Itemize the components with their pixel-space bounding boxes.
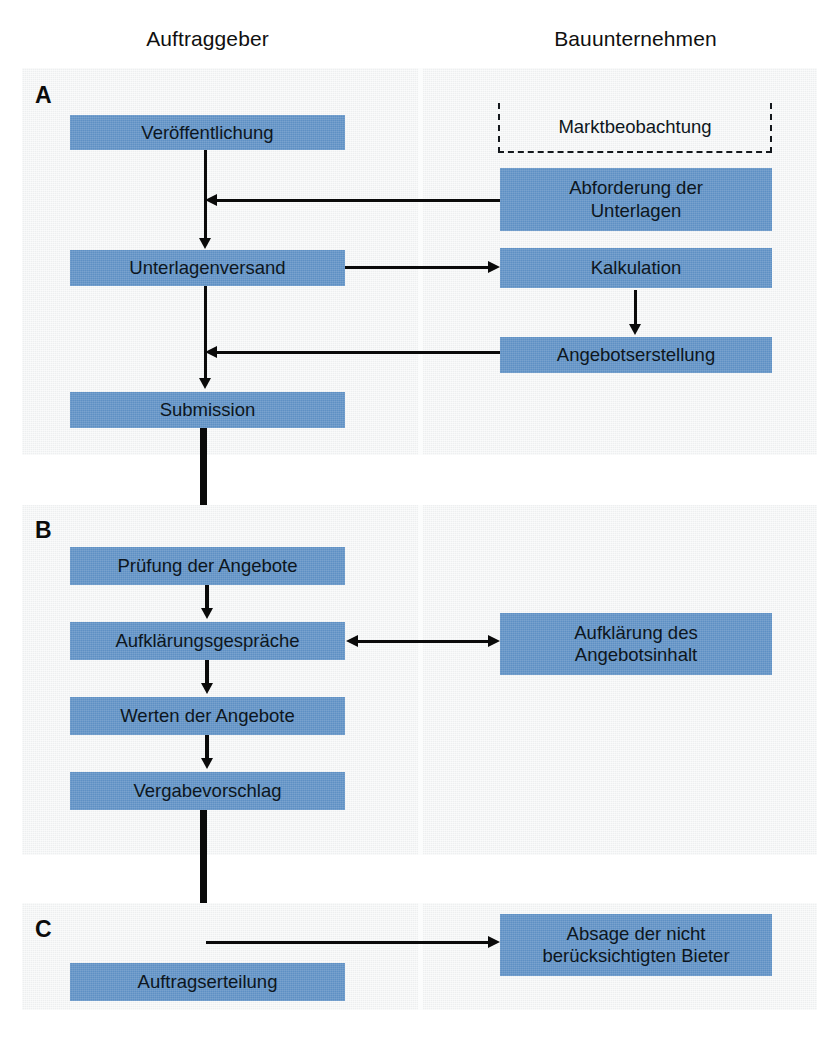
arrowhead-to-aufklaerungsgespraeche <box>201 608 213 619</box>
arrowhead-to-absage <box>488 936 500 948</box>
node-pruefung-der-angebote[interactable]: Prüfung der Angebote <box>70 547 345 585</box>
arrowhead-angebotsinhalt-to-aufklaerungsgespraeche <box>346 635 358 647</box>
node-abforderung-line-2: Unterlagen <box>591 200 682 222</box>
connector-kalkulation-to-angebotserstellung <box>634 290 637 325</box>
section-b-column-divider <box>418 505 423 855</box>
connector-unterlagenversand-to-kalkulation <box>345 266 488 269</box>
arrowhead-to-werten <box>201 683 213 694</box>
arrowhead-unterlagenversand-to-kalkulation <box>488 261 500 273</box>
node-submission[interactable]: Submission <box>70 392 345 428</box>
node-veroeffentlichung[interactable]: Veröffentlichung <box>70 115 345 150</box>
node-marktbeobachtung[interactable]: Marktbeobachtung <box>498 103 772 153</box>
arrowhead-to-submission <box>199 378 211 389</box>
node-absage-der-nicht-beruecksichtigten-bieter[interactable]: Absage der nicht berücksichtigten Bieter <box>500 914 772 976</box>
connector-angebotserstellung-to-auftraggeber <box>216 351 500 354</box>
arrowhead-to-unterlagenversand <box>199 238 211 249</box>
node-abforderung-der-unterlagen[interactable]: Abforderung der Unterlagen <box>500 168 772 231</box>
connector-vergabe-to-absage <box>206 941 488 944</box>
connector-werten-to-vergabevorschlag <box>205 735 209 759</box>
arrowhead-aufklaerungsgespraeche-to-angebotsinhalt <box>488 635 500 647</box>
connector-abforderung-to-auftraggeber <box>216 199 500 202</box>
column-title-bauunternehmen: Bauunternehmen <box>498 27 773 51</box>
section-a-label: A <box>35 84 52 107</box>
connector-pruefung-to-aufklaerungsgespraeche <box>205 585 209 609</box>
node-aufklaerung-line-1: Aufklärung des <box>574 622 697 644</box>
node-aufklaerung-line-2: Angebotsinhalt <box>575 644 697 666</box>
node-angebotserstellung[interactable]: Angebotserstellung <box>500 337 772 373</box>
arrowhead-to-vergabevorschlag <box>201 758 213 769</box>
node-abforderung-line-1: Abforderung der <box>569 177 703 199</box>
section-c-column-divider <box>418 903 423 1010</box>
node-werten-der-angebote[interactable]: Werten der Angebote <box>70 697 345 735</box>
node-unterlagenversand[interactable]: Unterlagenversand <box>70 250 345 286</box>
node-absage-line-1: Absage der nicht <box>567 923 706 945</box>
node-kalkulation[interactable]: Kalkulation <box>500 248 772 288</box>
node-absage-line-2: berücksichtigten Bieter <box>542 945 729 967</box>
node-aufklaerungsgespraeche[interactable]: Aufklärungsgespräche <box>70 622 345 660</box>
section-a-column-divider <box>418 68 423 455</box>
connector-aufklaerungsgespraeche-to-werten <box>205 660 209 684</box>
section-b-label: B <box>35 519 52 542</box>
node-auftragserteilung[interactable]: Auftragserteilung <box>70 963 345 1001</box>
section-c-label: C <box>35 918 52 941</box>
connector-aufklaerungsgespraeche-to-angebotsinhalt <box>357 640 488 643</box>
arrowhead-to-angebotserstellung <box>629 324 641 335</box>
arrowhead-abforderung-to-auftraggeber <box>205 194 217 206</box>
flowchart-diagram: Auftraggeber Bauunternehmen A Veröffentl… <box>0 0 838 1061</box>
arrowhead-angebotserstellung-to-auftraggeber <box>205 346 217 358</box>
connector-unterlagenversand-to-submission <box>204 286 207 379</box>
column-title-auftraggeber: Auftraggeber <box>70 27 345 51</box>
node-aufklaerung-des-angebotsinhalt[interactable]: Aufklärung des Angebotsinhalt <box>500 613 772 675</box>
node-vergabevorschlag[interactable]: Vergabevorschlag <box>70 772 345 810</box>
